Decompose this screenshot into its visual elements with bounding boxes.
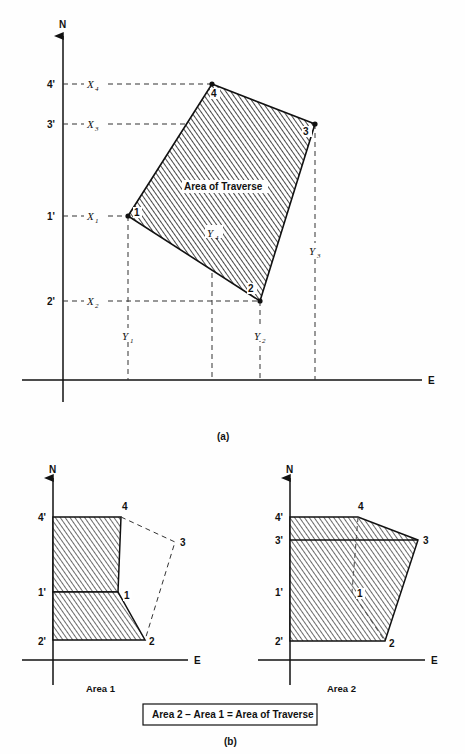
y-label-Y3-sub: 3 [316,252,321,260]
area-of-traverse-annotation: Area of Traverse [182,180,268,193]
panel-b-caption: (b) [224,736,237,747]
tick-label-2prime: 2' [47,296,55,307]
area2-shaded-region [290,517,418,641]
tick-label-4prime: 4' [47,79,55,90]
area2-tick-3prime: 3' [275,535,283,546]
area-of-traverse-text: Area of Traverse [184,181,263,192]
panel-a-north-label: N [59,19,66,30]
area1-tick-4prime: 4' [38,512,46,523]
area2-title: Area 2 [327,683,356,694]
area2-north-label: N [286,464,293,475]
vertex-label-1: 1 [133,207,142,218]
x-label-X4-sub: 4 [95,85,99,93]
vertex-label-3: 3 [302,126,312,137]
panel-b-area2: N E 4' 3' 1' 2' 4 3 1 2 Area 2 [258,464,438,694]
x-label-X1-text: X [86,210,95,222]
area1-tick-2prime: 2' [38,636,46,647]
vertex-label-4: 4 [210,88,220,99]
vertex-dot-4 [209,81,214,86]
area1-tick-1prime: 1' [38,587,46,598]
vertex-label-2: 2 [247,283,257,294]
area1-vertex-2: 2 [149,636,155,647]
area1-vertex-3: 3 [180,537,186,548]
x-label-X1-sub: 1 [95,217,99,225]
tick-label-1prime: 1' [47,211,55,222]
y-label-Y1: Y 1 [120,328,138,345]
panel-a-caption: (a) [217,431,229,442]
x-label-X3: X 3 [84,116,108,133]
area2-east-label: E [431,655,438,666]
panel-a-east-label: E [428,375,435,386]
vertex-label-1-text: 1 [134,207,140,218]
area2-tick-2prime: 2' [275,636,283,647]
tick-label-3prime: 3' [47,119,55,130]
area2-vertex-2: 2 [389,638,395,649]
x-label-X3-sub: 3 [94,125,99,133]
panel-b-area1: N E 4' 1' 2' 4 3 1 2 Area 1 [22,464,201,694]
x-label-X3-text: X [86,118,95,130]
y-label-Y4-sub: 4 [215,234,219,242]
panel-a: N E 1 2 3 [22,19,435,442]
area1-vertex-1-text: 1 [124,590,130,601]
x-label-X2-text: X [86,295,95,307]
x-label-X2: X 2 [84,293,108,310]
vertex-dot-2 [257,298,262,303]
x-label-X2-sub: 2 [95,302,99,310]
x-label-X4: X 4 [84,76,108,93]
area1-shaded-upper [53,517,121,592]
area2-tick-4prime: 4' [275,512,283,523]
area2-vertex-1: 1 [356,588,365,599]
area1-north-label: N [49,464,56,475]
y-label-Y1-sub: 1 [130,337,134,345]
equation-text: Area 2 − Area 1 = Area of Traverse [152,709,314,720]
area2-vertex-1-text: 1 [357,588,363,599]
area1-east-label: E [194,655,201,666]
y-label-Y3: Y 3 [307,243,325,260]
area2-vertex-4: 4 [358,501,364,512]
vertex-dot-1 [125,213,130,218]
area1-title: Area 1 [86,683,116,694]
figure-canvas: N E 1 2 3 [0,0,465,754]
equation-box: Area 2 − Area 1 = Area of Traverse [143,704,317,725]
vertex-label-4-text: 4 [211,88,217,99]
x-label-X1: X 1 [84,208,108,225]
vertex-dot-3 [312,121,317,126]
area2-tick-1prime: 1' [275,587,283,598]
area2-vertex-3: 3 [423,535,429,546]
y-label-Y2: Y 2 [252,328,270,345]
area1-vertex-4: 4 [122,501,128,512]
x-label-X4-text: X [86,78,95,90]
vertex-label-2-text: 2 [248,283,254,294]
vertex-label-3-text: 3 [303,126,309,137]
y-label-Y2-sub: 2 [262,337,266,345]
area1-vertex-1: 1 [123,590,132,601]
